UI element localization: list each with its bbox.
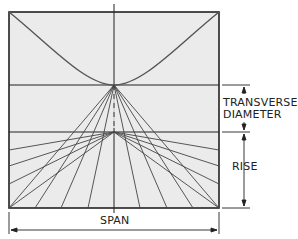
rise-label: RISE [232,160,258,173]
transverse-label-line2: DIAMETER [223,108,282,121]
span-label: SPAN [100,214,129,227]
